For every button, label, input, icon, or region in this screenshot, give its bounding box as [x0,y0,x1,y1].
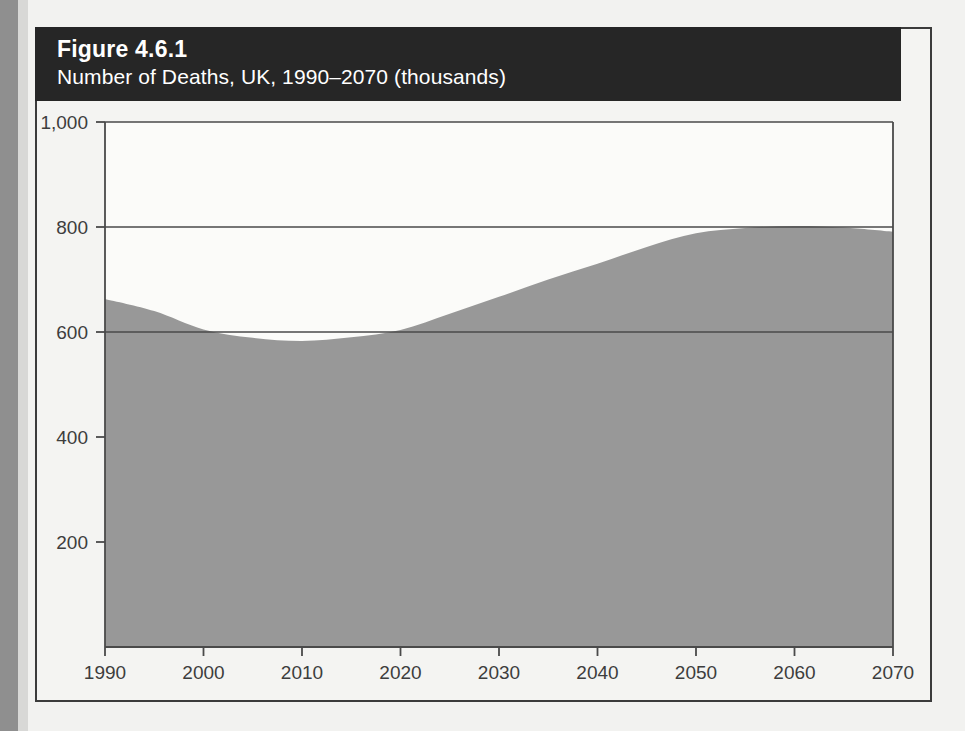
y-tick-label-1000: 1,000 [40,112,88,133]
x-tick-label-2040: 2040 [576,662,618,683]
x-axis-tick-labels: 199020002010202020302040205020602070 [84,662,914,683]
figure-title-banner: Figure 4.6.1 Number of Deaths, UK, 1990–… [35,27,901,101]
page-gutter-shadow [18,0,28,731]
x-tick-label-2060: 2060 [773,662,815,683]
y-axis-tick-labels: 2004006008001,000 [40,112,88,553]
figure-number: Figure 4.6.1 [57,36,901,63]
y-tick-label-400: 400 [56,427,88,448]
x-tick-label-2050: 2050 [675,662,717,683]
area-chart: 2004006008001,000 1990200020102020203020… [35,101,932,702]
y-tick-label-200: 200 [56,532,88,553]
x-tick-label-2030: 2030 [478,662,520,683]
x-tick-label-2020: 2020 [379,662,421,683]
figure-subtitle: Number of Deaths, UK, 1990–2070 (thousan… [57,63,901,90]
page-background: Figure 4.6.1 Number of Deaths, UK, 1990–… [0,0,965,731]
y-tick-label-600: 600 [56,322,88,343]
x-tick-label-2070: 2070 [872,662,914,683]
x-tick-label-1990: 1990 [84,662,126,683]
y-tick-label-800: 800 [56,217,88,238]
x-tick-label-2000: 2000 [182,662,224,683]
x-tick-label-2010: 2010 [281,662,323,683]
chart-area: 2004006008001,000 1990200020102020203020… [35,101,932,702]
page-gutter-stripe [0,0,18,731]
